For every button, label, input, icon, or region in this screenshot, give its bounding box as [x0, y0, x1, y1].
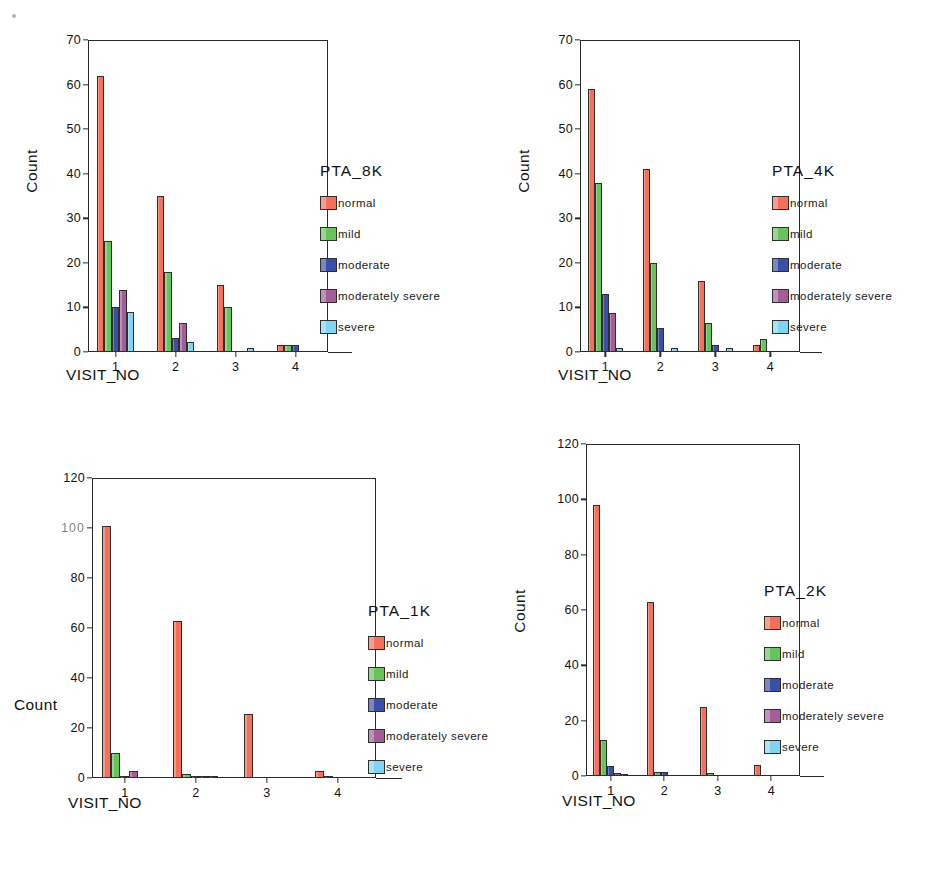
legend-item-moderately-severe[interactable]: moderately severe: [772, 289, 892, 303]
legend-item-normal[interactable]: normal: [764, 616, 884, 630]
bar-moderate: [602, 294, 609, 352]
legend-item-mild[interactable]: mild: [320, 227, 440, 241]
x-axis-tick-mark: [337, 778, 338, 783]
bar-mild: [654, 772, 661, 776]
x-axis-tick-mark: [715, 352, 716, 357]
legend-swatch-mild-icon: [772, 227, 789, 241]
bar-normal: [277, 345, 285, 352]
bar-moderately-severe: [119, 290, 127, 352]
x-axis-tick-mark: [115, 352, 116, 357]
legend-item-label: severe: [790, 321, 827, 333]
bar-mild: [111, 753, 120, 778]
bar-mild: [104, 241, 112, 352]
bar-normal: [97, 76, 105, 352]
bar-severe: [187, 342, 195, 352]
legend-item-label: moderately severe: [790, 290, 892, 302]
legend-item-moderately-severe[interactable]: moderately severe: [320, 289, 440, 303]
bar-normal: [698, 281, 705, 352]
plot-frame: [92, 478, 376, 778]
y-axis-tick-mark: [575, 39, 580, 40]
bar-moderately-severe: [129, 771, 138, 779]
legend-item-label: moderately severe: [782, 710, 884, 722]
legend-swatch-normal-icon: [772, 196, 789, 210]
bar-mild: [284, 345, 292, 352]
legend-item-normal[interactable]: normal: [320, 196, 440, 210]
legend-item-severe[interactable]: severe: [772, 320, 892, 334]
x-axis-extension: [328, 352, 352, 353]
legend-item-moderate[interactable]: moderate: [368, 698, 488, 712]
y-axis-tick-mark: [581, 720, 586, 721]
bar-moderate: [712, 345, 719, 352]
plot-frame: [580, 40, 800, 352]
legend-item-severe[interactable]: severe: [764, 740, 884, 754]
legend-item-label: moderate: [338, 259, 390, 271]
legend-item-label: normal: [782, 617, 820, 629]
chart-panel-pta4k: 0102030405060701234VISIT_NOCountPTA_4Kno…: [512, 14, 942, 414]
legend-item-severe[interactable]: severe: [320, 320, 440, 334]
x-axis-title: VISIT_NO: [68, 794, 142, 812]
y-axis-tick-mark: [581, 499, 586, 500]
legend-item-label: normal: [338, 197, 376, 209]
y-axis-tick-mark: [83, 351, 88, 352]
legend-item-mild[interactable]: mild: [368, 667, 488, 681]
legend-item-label: moderate: [386, 699, 438, 711]
bar-moderate: [191, 776, 200, 778]
x-axis-title: VISIT_NO: [562, 792, 636, 810]
legend-swatch-moderately-severe-icon: [368, 729, 385, 743]
y-axis-tick-mark: [581, 554, 586, 555]
x-axis-tick-mark: [663, 776, 664, 781]
plot-area-pta4k: 0102030405060701234: [580, 40, 800, 352]
legend-item-label: mild: [790, 228, 813, 240]
bar-moderately-severe: [200, 776, 209, 778]
legend-swatch-severe-icon: [368, 760, 385, 774]
legend-item-label: moderately severe: [338, 290, 440, 302]
legend-swatch-normal-icon: [320, 196, 337, 210]
legend-item-moderate[interactable]: moderate: [772, 258, 892, 272]
legend-title: PTA_1K: [368, 602, 488, 620]
y-axis-tick-mark: [575, 84, 580, 85]
legend-swatch-mild-icon: [764, 647, 781, 661]
bar-mild: [182, 774, 191, 778]
x-axis-extension: [800, 776, 824, 777]
bar-severe: [616, 348, 623, 352]
bar-normal: [315, 771, 324, 779]
y-axis-tick-mark: [83, 307, 88, 308]
y-axis-tick-mark: [575, 128, 580, 129]
plot-area-pta8k: 0102030405060701234: [88, 40, 328, 352]
y-axis-tick-mark: [87, 727, 92, 728]
legend-item-label: normal: [790, 197, 828, 209]
y-axis-tick-mark: [87, 777, 92, 778]
bar-normal: [102, 526, 111, 779]
legend-item-moderately-severe[interactable]: moderately severe: [764, 709, 884, 723]
bar-mild: [164, 272, 172, 352]
bar-normal: [244, 714, 253, 778]
bar-mild: [650, 263, 657, 352]
y-axis-tick-mark: [581, 443, 586, 444]
legend-item-moderate[interactable]: moderate: [764, 678, 884, 692]
legend-item-normal[interactable]: normal: [368, 636, 488, 650]
legend-item-label: moderate: [790, 259, 842, 271]
bar-moderate: [607, 766, 614, 776]
bar-severe: [726, 348, 733, 352]
bar-moderately-severe: [614, 773, 621, 776]
legend-item-mild[interactable]: mild: [764, 647, 884, 661]
legend-item-severe[interactable]: severe: [368, 760, 488, 774]
y-axis-title: Count: [515, 149, 533, 192]
bar-normal: [753, 345, 760, 352]
legend-title: PTA_2K: [764, 582, 884, 600]
legend-item-moderate[interactable]: moderate: [320, 258, 440, 272]
bar-mild: [760, 339, 767, 352]
bar-moderate: [112, 307, 120, 352]
bar-severe: [621, 774, 628, 776]
y-axis-tick-mark: [575, 307, 580, 308]
y-axis-title: Count: [511, 589, 529, 632]
legend-item-mild[interactable]: mild: [772, 227, 892, 241]
bar-moderate: [661, 772, 668, 776]
y-axis-tick-mark: [83, 39, 88, 40]
legend-item-normal[interactable]: normal: [772, 196, 892, 210]
legend-swatch-moderately-severe-icon: [320, 289, 337, 303]
x-axis-tick-mark: [195, 778, 196, 783]
legend-item-label: mild: [782, 648, 805, 660]
bar-mild: [705, 323, 712, 352]
legend-item-moderately-severe[interactable]: moderately severe: [368, 729, 488, 743]
